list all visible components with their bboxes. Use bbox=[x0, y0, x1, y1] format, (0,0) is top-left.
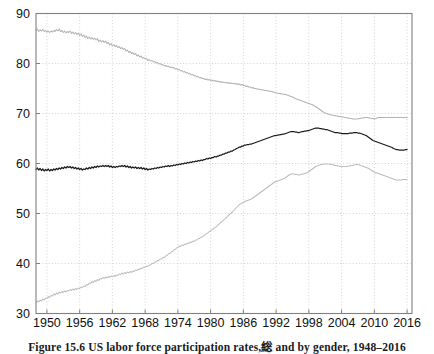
y-axis-tick-label: 40 bbox=[16, 257, 30, 271]
axes-frame bbox=[36, 14, 412, 314]
series-line-men bbox=[36, 29, 407, 119]
line-chart: 30405060708090 1950195619621968197419801… bbox=[0, 0, 434, 340]
y-axis-tick-label: 80 bbox=[16, 57, 30, 71]
figure-container: 30405060708090 1950195619621968197419801… bbox=[0, 0, 434, 354]
figure-caption-text: Figure 15.6 US labor force participation… bbox=[0, 340, 434, 354]
x-axis-tick-label: 1968 bbox=[131, 316, 159, 330]
x-axis-labels: 1950195619621968197419801986199219982004… bbox=[33, 316, 421, 330]
x-axis-tick-label: 1986 bbox=[229, 316, 257, 330]
x-axis-tick-label: 1962 bbox=[98, 316, 126, 330]
x-axis-tick-label: 1992 bbox=[262, 316, 290, 330]
x-axis-tick-label: 2010 bbox=[360, 316, 388, 330]
y-axis-tick-label: 50 bbox=[16, 207, 30, 221]
y-axis-tick-label: 60 bbox=[16, 157, 30, 171]
y-axis-tick-label: 90 bbox=[16, 7, 30, 21]
y-axis-labels: 30405060708090 bbox=[16, 7, 30, 321]
y-axis-tick-label: 70 bbox=[16, 107, 30, 121]
x-axis-tick-label: 1974 bbox=[164, 316, 192, 330]
x-axis-tick-label: 1980 bbox=[197, 316, 225, 330]
x-axis-tick-label: 1956 bbox=[66, 316, 94, 330]
series-line-women bbox=[36, 164, 407, 303]
x-axis-tick-label: 2004 bbox=[328, 316, 356, 330]
x-axis-tick-label: 2016 bbox=[393, 316, 421, 330]
series-layer bbox=[36, 29, 407, 303]
axis-tick-marks bbox=[36, 14, 407, 314]
chart-plot-area: 30405060708090 1950195619621968197419801… bbox=[0, 0, 434, 340]
x-axis-tick-label: 1998 bbox=[295, 316, 323, 330]
plot-frame bbox=[36, 14, 412, 314]
series-line-total bbox=[36, 128, 407, 171]
figure-caption: Figure 15.6 US labor force participation… bbox=[0, 340, 434, 354]
y-axis-tick-label: 30 bbox=[16, 307, 30, 321]
x-axis-tick-label: 1950 bbox=[33, 316, 61, 330]
gridlines bbox=[36, 14, 412, 314]
